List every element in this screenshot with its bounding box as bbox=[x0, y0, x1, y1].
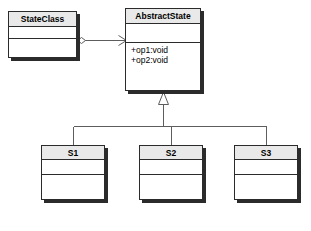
attributes-compartment-s2 bbox=[140, 160, 202, 175]
class-box-s2[interactable]: S2 bbox=[139, 145, 203, 200]
class-name-stateclass: StateClass bbox=[9, 12, 76, 27]
generalization-tree bbox=[74, 92, 267, 145]
operations-compartment-stateclass bbox=[9, 39, 76, 57]
class-name-abstractstate: AbstractState bbox=[126, 9, 200, 24]
attributes-compartment-abstractstate bbox=[126, 24, 200, 43]
class-box-s1[interactable]: S1 bbox=[41, 145, 105, 200]
operations-compartment-s3 bbox=[235, 175, 297, 199]
class-box-stateclass[interactable]: StateClass bbox=[8, 11, 77, 58]
operations-compartment-s1 bbox=[42, 175, 104, 199]
open-diamond-icon bbox=[78, 38, 86, 44]
aggregation-stateclass-abstractstate bbox=[78, 36, 132, 46]
operation-op1: +op1:void bbox=[131, 45, 200, 55]
class-box-abstractstate[interactable]: AbstractState +op1:void +op2:void bbox=[125, 8, 201, 91]
hollow-triangle-icon bbox=[159, 92, 169, 105]
class-box-s3[interactable]: S3 bbox=[234, 145, 298, 200]
class-name-s2: S2 bbox=[140, 146, 202, 160]
attributes-compartment-stateclass bbox=[9, 27, 76, 39]
operations-compartment-s2 bbox=[140, 175, 202, 199]
attributes-compartment-s1 bbox=[42, 160, 104, 175]
operations-compartment-abstractstate: +op1:void +op2:void bbox=[126, 43, 200, 90]
uml-class-diagram: StateClass AbstractState +op1:void +op2:… bbox=[0, 0, 311, 231]
operation-op2: +op2:void bbox=[131, 55, 200, 65]
attributes-compartment-s3 bbox=[235, 160, 297, 175]
class-name-s1: S1 bbox=[42, 146, 104, 160]
class-name-s3: S3 bbox=[235, 146, 297, 160]
